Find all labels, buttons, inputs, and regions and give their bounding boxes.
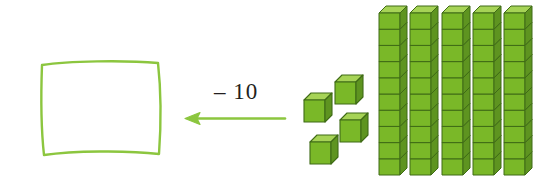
cube-front-face bbox=[410, 94, 431, 110]
cube-front-face bbox=[379, 78, 400, 94]
ten-rod bbox=[409, 5, 439, 177]
cube-front-face bbox=[504, 110, 525, 126]
cube-front-face bbox=[410, 13, 431, 29]
cube-front-face bbox=[473, 110, 494, 126]
cube-front-face bbox=[442, 94, 463, 110]
cube-front-face bbox=[473, 143, 494, 159]
cube-front-face bbox=[410, 62, 431, 78]
cube-front-face bbox=[504, 126, 525, 142]
cube-front-face bbox=[504, 13, 525, 29]
cube-front-face bbox=[410, 126, 431, 142]
cube-front-face bbox=[473, 13, 494, 29]
cube-front-face bbox=[473, 126, 494, 142]
cube-front-face bbox=[473, 62, 494, 78]
cube-front-face bbox=[473, 159, 494, 175]
cube-front-face bbox=[473, 94, 494, 110]
ten-rod bbox=[378, 5, 408, 177]
cube-front-face bbox=[504, 62, 525, 78]
cube-front-face bbox=[379, 62, 400, 78]
cube-front-face bbox=[442, 110, 463, 126]
ten-rod bbox=[441, 5, 471, 177]
cube-front-face bbox=[379, 94, 400, 110]
cube-front-face bbox=[379, 143, 400, 159]
cube-front-face bbox=[379, 159, 400, 175]
cube-front-face bbox=[504, 94, 525, 110]
cube-front-face bbox=[473, 29, 494, 45]
cube-front-face bbox=[442, 143, 463, 159]
cube-front-face bbox=[442, 45, 463, 61]
base-ten-blocks-scene: – 10 bbox=[0, 0, 559, 190]
cube-front-face bbox=[442, 126, 463, 142]
cube-front-face bbox=[410, 110, 431, 126]
rod-cube bbox=[473, 6, 501, 29]
cube-front-face bbox=[473, 45, 494, 61]
cube-front-face bbox=[442, 159, 463, 175]
cube-front-face bbox=[379, 13, 400, 29]
cube-front-face bbox=[410, 159, 431, 175]
cube-front-face bbox=[379, 126, 400, 142]
ten-rod bbox=[503, 5, 533, 177]
ten-rod bbox=[472, 5, 502, 177]
cube-front-face bbox=[442, 62, 463, 78]
cube-front-face bbox=[410, 45, 431, 61]
cube-front-face bbox=[504, 78, 525, 94]
cube-front-face bbox=[504, 45, 525, 61]
cube-front-face bbox=[442, 29, 463, 45]
cube-front-face bbox=[379, 110, 400, 126]
rod-cube bbox=[504, 6, 532, 29]
cube-front-face bbox=[379, 45, 400, 61]
cube-front-face bbox=[410, 78, 431, 94]
cube-front-face bbox=[504, 143, 525, 159]
rod-cube bbox=[379, 6, 407, 29]
rod-cube bbox=[442, 6, 470, 29]
cube-front-face bbox=[410, 29, 431, 45]
cube-front-face bbox=[410, 143, 431, 159]
cube-front-face bbox=[442, 13, 463, 29]
cube-front-face bbox=[504, 29, 525, 45]
rod-cube bbox=[410, 6, 438, 29]
cube-front-face bbox=[442, 78, 463, 94]
cube-front-face bbox=[473, 78, 494, 94]
ten-rods-group bbox=[0, 0, 559, 190]
cube-front-face bbox=[504, 159, 525, 175]
cube-front-face bbox=[379, 29, 400, 45]
